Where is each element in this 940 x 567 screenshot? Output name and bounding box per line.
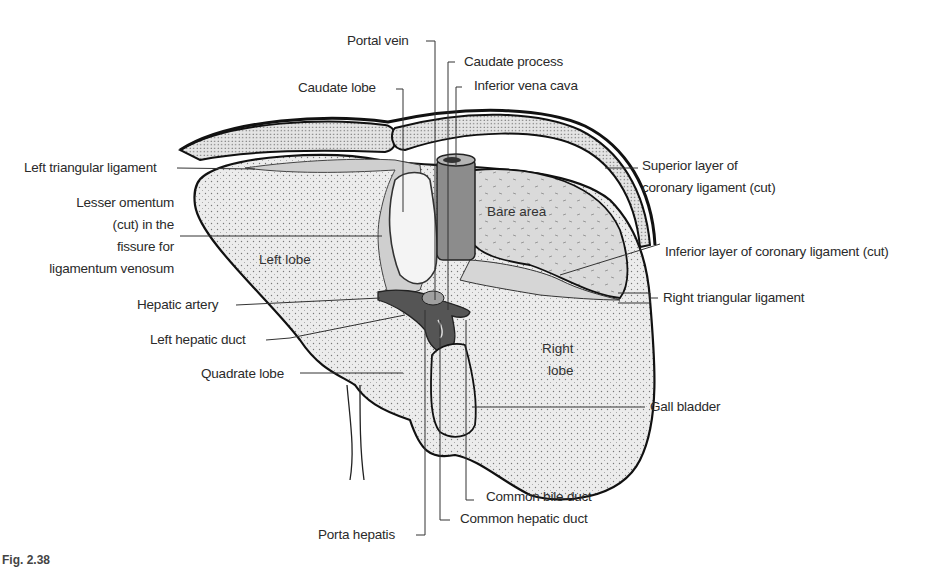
label-quadrate-lobe: Quadrate lobe [201, 366, 284, 382]
label-hepatic-artery: Hepatic artery [137, 297, 218, 313]
label-lesser-omentum-line1: Lesser omentum [76, 195, 174, 211]
right-lobe-label-line1: Right [542, 341, 574, 357]
bare-area-shape [459, 169, 627, 300]
caudate-lobe-shape [390, 173, 438, 284]
left-lobe-label: Left lobe [259, 252, 311, 268]
figure-caption: Fig. 2.38 [2, 553, 50, 567]
label-lesser-omentum-line3: fissure for [117, 239, 174, 255]
inferior-vena-cava-shape [437, 154, 475, 260]
label-left-hepatic-duct: Left hepatic duct [150, 332, 246, 348]
right-lobe-label-line2: lobe [548, 363, 574, 379]
label-caudate-lobe: Caudate lobe [298, 80, 376, 96]
label-porta-hepatis: Porta hepatis [318, 527, 395, 543]
label-inferior-vena-cava: Inferior vena cava [474, 78, 578, 94]
label-superior-layer-coronary-line2: coronary ligament (cut) [642, 180, 775, 196]
gall-bladder-shape [431, 344, 476, 437]
label-common-hepatic-duct: Common hepatic duct [460, 511, 588, 527]
label-left-triangular-ligament: Left triangular ligament [24, 160, 157, 176]
label-superior-layer-coronary-line1: Superior layer of [642, 158, 738, 174]
label-caudate-process: Caudate process [464, 54, 563, 70]
label-right-triangular-ligament: Right triangular ligament [663, 290, 804, 306]
label-inferior-layer-coronary: Inferior layer of coronary ligament (cut… [665, 244, 889, 260]
bare-area-label: Bare area [487, 204, 546, 220]
label-lesser-omentum-line2: (cut) in the [113, 217, 174, 233]
label-lesser-omentum-line4: ligamentum venosum [49, 261, 174, 277]
label-common-bile-duct: Common bile duct [486, 489, 592, 505]
label-portal-vein: Portal vein [347, 33, 409, 49]
label-gall-bladder: Gall bladder [650, 399, 720, 415]
